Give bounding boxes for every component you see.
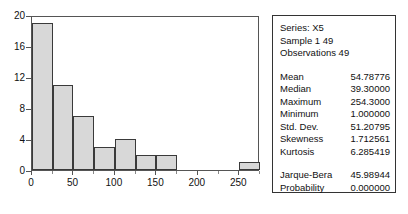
- stat-value: 1.712561: [350, 133, 390, 146]
- x-tick-label: 50: [57, 177, 87, 188]
- normality-test-block: Jarque-Bera45.98944Probability0.000000: [280, 169, 390, 194]
- x-minor-tick-mark: [135, 171, 136, 174]
- stat-label: Median: [280, 83, 311, 96]
- x-tick-mark: [155, 171, 156, 175]
- x-minor-tick-mark: [259, 171, 260, 174]
- histogram-bars: [32, 17, 258, 170]
- stat-label: Mean: [280, 71, 304, 84]
- stat-row: Std. Dev.51.20795: [280, 121, 390, 134]
- x-tick-label: 100: [99, 177, 129, 188]
- stat-value: 51.20795: [350, 121, 390, 134]
- stat-label: Probability: [280, 182, 324, 195]
- y-tick-mark: [26, 47, 31, 48]
- x-tick-mark: [114, 171, 115, 175]
- descriptive-stats-block: Mean54.78776Median39.30000Maximum254.300…: [280, 71, 390, 159]
- stat-row: Mean54.78776: [280, 71, 390, 84]
- stat-value: 6.285419: [350, 146, 390, 159]
- plot-area: [31, 16, 259, 171]
- histogram-bar: [53, 85, 74, 170]
- x-minor-tick-mark: [218, 171, 219, 174]
- stats-header-block: Series: X5 Sample 1 49 Observations 49: [280, 22, 390, 60]
- x-tick-mark: [72, 171, 73, 175]
- y-tick-label: 12: [3, 73, 25, 83]
- histogram-screenshot: 048121620 050100150200250 Series: X5 Sam…: [0, 0, 408, 214]
- stat-value: 39.30000: [350, 83, 390, 96]
- stat-row: Kurtosis6.285419: [280, 146, 390, 159]
- histogram-bar: [156, 155, 177, 171]
- y-tick-mark: [26, 140, 31, 141]
- stats-spacer-bottom: [280, 158, 390, 169]
- stat-label: Std. Dev.: [280, 121, 318, 134]
- sample-range-line: Sample 1 49: [280, 35, 390, 48]
- histogram-bar: [73, 116, 94, 170]
- histogram-figure: 048121620 050100150200250: [0, 0, 268, 214]
- stat-label: Maximum: [280, 96, 321, 109]
- histogram-bar: [115, 139, 136, 170]
- statistics-panel: Series: X5 Sample 1 49 Observations 49 M…: [272, 15, 396, 193]
- x-minor-tick-mark: [93, 171, 94, 174]
- stats-spacer-top: [280, 60, 390, 71]
- stat-row: Minimum1.000000: [280, 108, 390, 121]
- y-tick-mark: [26, 16, 31, 17]
- x-tick-label: 0: [16, 177, 46, 188]
- x-tick-label: 250: [223, 177, 253, 188]
- stat-value: 0.000000: [350, 182, 390, 195]
- histogram-bar: [136, 155, 157, 171]
- x-minor-tick-mark: [176, 171, 177, 174]
- series-name-line: Series: X5: [280, 22, 390, 35]
- stat-label: Kurtosis: [280, 146, 314, 159]
- y-tick-label: 4: [3, 135, 25, 145]
- x-tick-label: 150: [140, 177, 170, 188]
- y-tick-label: 0: [3, 166, 25, 176]
- stat-label: Minimum: [280, 108, 319, 121]
- y-tick-mark: [26, 78, 31, 79]
- x-tick-label: 200: [182, 177, 212, 188]
- stat-value: 254.3000: [350, 96, 390, 109]
- stat-value: 1.000000: [350, 108, 390, 121]
- y-tick-label: 16: [3, 42, 25, 52]
- observations-line: Observations 49: [280, 47, 390, 60]
- x-tick-mark: [238, 171, 239, 175]
- y-tick-label: 8: [3, 104, 25, 114]
- x-minor-tick-mark: [52, 171, 53, 174]
- stat-row: Maximum254.3000: [280, 96, 390, 109]
- stat-label: Skewness: [280, 133, 323, 146]
- x-tick-mark: [197, 171, 198, 175]
- y-tick-mark: [26, 109, 31, 110]
- stat-row: Jarque-Bera45.98944: [280, 169, 390, 182]
- stat-row: Skewness1.712561: [280, 133, 390, 146]
- stat-value: 54.78776: [350, 71, 390, 84]
- histogram-bar: [32, 23, 53, 170]
- histogram-bar: [94, 147, 115, 170]
- y-tick-label: 20: [3, 11, 25, 21]
- stat-row: Probability0.000000: [280, 182, 390, 195]
- stat-label: Jarque-Bera: [280, 169, 332, 182]
- x-tick-mark: [31, 171, 32, 175]
- stat-row: Median39.30000: [280, 83, 390, 96]
- histogram-bar: [239, 162, 260, 170]
- stat-value: 45.98944: [350, 169, 390, 182]
